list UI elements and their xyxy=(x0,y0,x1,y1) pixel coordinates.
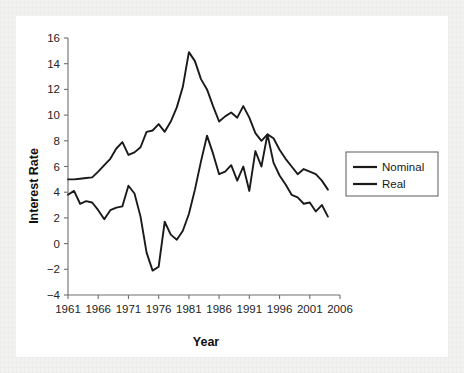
x-tick-label: 1966 xyxy=(85,303,111,315)
x-axis-ticks: 1961196619711976198119861991199620012006 xyxy=(55,295,353,315)
y-tick-label: −4 xyxy=(47,289,61,301)
y-tick-label: 14 xyxy=(47,58,60,70)
x-axis-title: Year xyxy=(193,335,220,349)
y-axis-title: Interest Rate xyxy=(27,148,41,224)
y-tick-label: −2 xyxy=(47,263,60,275)
y-tick-label: 16 xyxy=(47,32,60,44)
x-tick-label: 1996 xyxy=(267,303,293,315)
x-tick-label: 2006 xyxy=(327,303,353,315)
interest-rate-line-chart: Interest Rate Year −4−20246810121416 196… xyxy=(16,16,448,357)
x-tick-label: 2001 xyxy=(297,303,323,315)
y-tick-label: 4 xyxy=(54,186,61,198)
x-tick-label: 1986 xyxy=(206,303,232,315)
x-tick-label: 1976 xyxy=(146,303,172,315)
legend-label-nominal: Nominal xyxy=(382,161,424,173)
series-line-nominal xyxy=(68,52,328,189)
legend-label-real: Real xyxy=(382,178,406,190)
y-tick-label: 10 xyxy=(47,109,60,121)
y-tick-label: 6 xyxy=(54,161,60,173)
chart-legend: Nominal Real xyxy=(346,152,438,196)
x-tick-label: 1971 xyxy=(116,303,142,315)
series-line-real xyxy=(68,134,328,270)
y-tick-label: 0 xyxy=(54,238,60,250)
x-tick-label: 1991 xyxy=(237,303,263,315)
y-axis-ticks: −4−20246810121416 xyxy=(47,32,68,301)
y-tick-label: 8 xyxy=(54,135,60,147)
x-tick-label: 1981 xyxy=(176,303,202,315)
x-tick-label: 1961 xyxy=(55,303,81,315)
series-group xyxy=(68,52,328,270)
y-tick-label: 12 xyxy=(47,83,60,95)
chart-card: Interest Rate Year −4−20246810121416 196… xyxy=(16,16,448,357)
figure-root: Interest Rate Year −4−20246810121416 196… xyxy=(0,0,464,373)
y-tick-label: 2 xyxy=(54,212,60,224)
